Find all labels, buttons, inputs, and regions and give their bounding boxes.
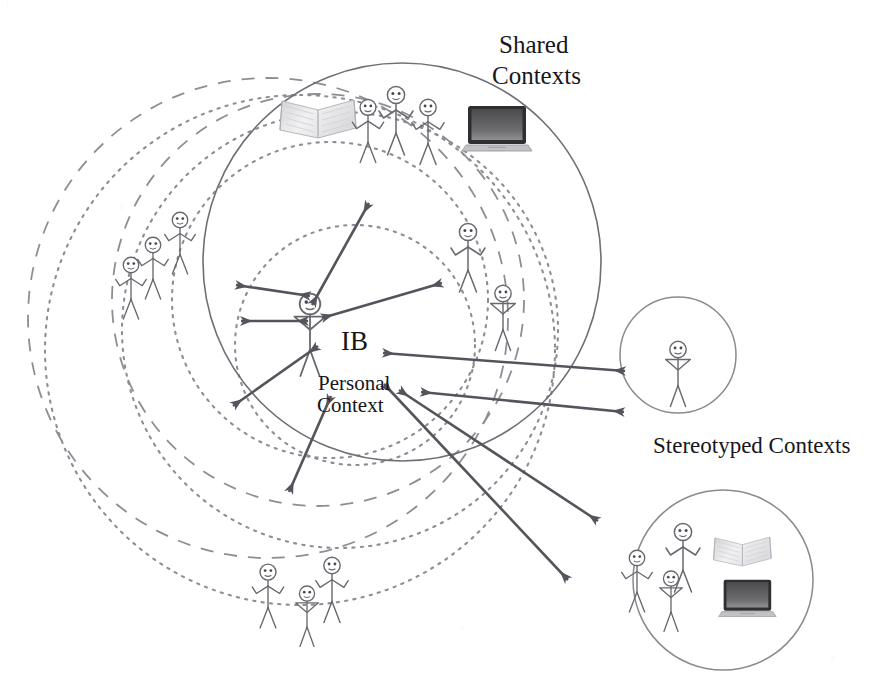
contexts-diagram-canvas: i c v a: [0, 0, 874, 700]
label-shared-contexts-line1: Shared: [499, 31, 569, 58]
stick-figure-bottom-2: [296, 586, 319, 646]
svg-text:v: v: [460, 620, 466, 632]
laptop-icon-stereotyped: [719, 580, 776, 617]
label-personal-context-line1: Personal: [318, 371, 390, 395]
book-icon-shared: [280, 100, 356, 138]
svg-text:i: i: [6, 0, 9, 10]
stick-figure-bottom-1: [252, 564, 284, 628]
stick-figure-left-1: [116, 257, 147, 319]
stick-figure-stereotyped-3: [660, 571, 683, 631]
book-icon-stereotyped: [714, 537, 772, 566]
figure-group-bottom: [252, 557, 348, 646]
arrow-down-left: [233, 346, 318, 406]
label-ib: IB: [341, 326, 368, 356]
stick-figure-stereotyped-single: [666, 341, 691, 406]
figure-group-shared-right: [451, 223, 515, 350]
svg-text:a: a: [830, 650, 835, 662]
stick-figure-shared-top-2: [379, 86, 413, 155]
stereotyped-context-circle-group[interactable]: [633, 490, 813, 670]
stick-figure-shared-top-3: [412, 99, 444, 164]
stick-figure-left-3: [165, 212, 196, 274]
stick-figure-stereotyped-1: [622, 550, 653, 612]
stick-figure-shared-right-1: [451, 223, 485, 292]
label-personal-context-line2: Context: [317, 393, 384, 417]
stick-figure-shared-top-1: [352, 99, 383, 162]
arrow-upper-right-diagonal: [322, 283, 442, 318]
svg-text:c: c: [120, 200, 125, 212]
personal-dotted-circle-b: [122, 112, 558, 548]
diagram-root: i c v a: [0, 0, 874, 700]
personal-context-circles: [28, 78, 558, 605]
personal-dashed-circle-a: [28, 78, 508, 558]
laptop-icon-shared: [462, 106, 532, 151]
arrow-right-long-to-stereotyped-single: [383, 353, 625, 371]
arrow-group: [233, 203, 625, 580]
label-stereotyped-contexts: Stereotyped Contexts: [653, 433, 850, 458]
stick-figure-bottom-3: [316, 557, 348, 622]
stick-figure-left-2: [138, 237, 169, 299]
arrow-up-right: [312, 203, 369, 305]
stick-figure-shared-right-2: [491, 285, 516, 350]
arrow-to-stereotyped-group: [399, 390, 598, 521]
stick-figure-central-ib[interactable]: [294, 294, 325, 376]
label-shared-contexts-line2: Contexts: [492, 62, 581, 89]
figure-group-left: [116, 212, 196, 319]
scan-artifacts: i c v a: [6, 0, 835, 662]
